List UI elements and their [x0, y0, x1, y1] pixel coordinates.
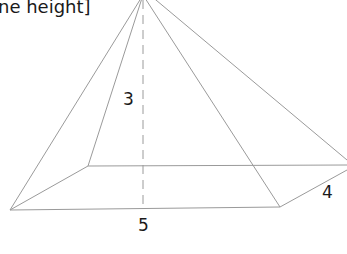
base-width-label: 4	[322, 182, 333, 202]
base-length-label: 5	[138, 215, 149, 235]
base-left-edge	[10, 166, 88, 210]
base-back-edge	[88, 165, 347, 166]
base-right-edge	[280, 170, 347, 207]
height-label: 3	[123, 89, 134, 109]
lateral-edge-front-right	[143, 0, 280, 207]
pyramid-diagram: 3 5 4	[0, 0, 347, 254]
lateral-edge-back-left	[88, 0, 143, 166]
base-front-edge	[10, 207, 280, 210]
lateral-edge-back-right	[150, 0, 347, 160]
